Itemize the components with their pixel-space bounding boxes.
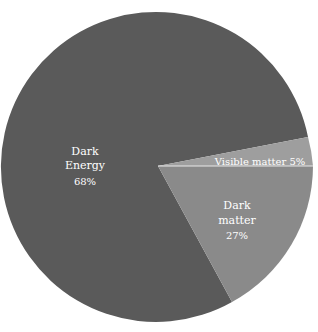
label-dark-energy-value: 68% xyxy=(74,176,96,187)
pie-chart: Dark Energy 68% Dark matter 27% Visible … xyxy=(0,0,318,332)
label-dark-matter-line1: Dark xyxy=(223,199,251,212)
label-dark-energy-line1: Dark xyxy=(71,145,99,158)
label-dark-energy-line2: Energy xyxy=(65,159,106,172)
label-visible-matter: Visible matter 5% xyxy=(214,156,306,167)
label-dark-matter-value: 27% xyxy=(226,230,248,241)
label-dark-matter-line2: matter xyxy=(218,214,256,227)
